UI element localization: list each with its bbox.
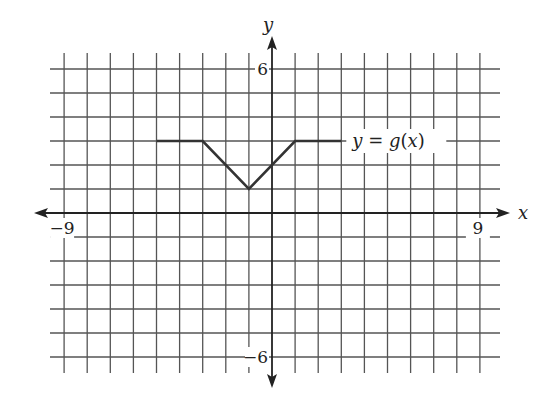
y-axis-title: y: [262, 14, 274, 35]
axes: [34, 36, 510, 388]
x-axis-title: x: [518, 202, 528, 223]
x-tick-label: −9: [50, 218, 75, 238]
coordinate-plane: yx−996−6y = g(x): [0, 0, 560, 406]
y-tick-label: −6: [243, 347, 268, 367]
y-tick-label: 6: [257, 59, 268, 79]
function-label: y = g(x): [351, 130, 424, 151]
x-tick-label: 9: [472, 218, 483, 238]
